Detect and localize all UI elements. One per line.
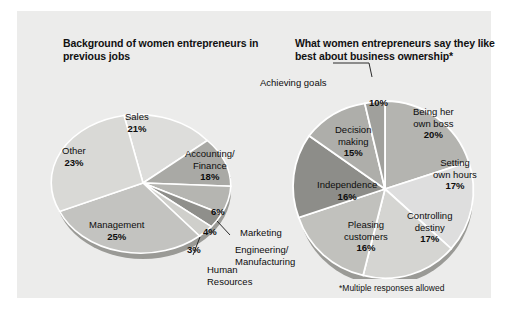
label-human-resources: Human Resources <box>207 264 252 287</box>
label-controlling-destiny: Controlling destiny17% <box>407 210 452 245</box>
chart-panel: Background of women entrepreneurs in pre… <box>17 11 491 298</box>
right-chart-title: What women entrepreneurs say they like b… <box>295 37 506 63</box>
label-independence: Independence16% <box>317 179 377 202</box>
label-sales: Sales21% <box>125 111 149 134</box>
label-setting-own-hours: Setting own hours17% <box>433 157 477 192</box>
label-engineering-value: 4% <box>203 226 217 238</box>
label-other: Other23% <box>62 145 86 168</box>
label-marketing-value: 6% <box>211 206 225 218</box>
label-achieving-goals-value: 10% <box>369 97 388 109</box>
right-leader-lines <box>333 63 372 77</box>
label-management: Management25% <box>89 219 144 242</box>
label-hr-value: 3% <box>187 244 201 256</box>
label-accounting-finance: Accounting/ Finance18% <box>185 148 235 183</box>
right-chart-footnote: *Multiple responses allowed <box>339 283 444 293</box>
label-achieving-goals: Achieving goals <box>260 77 327 89</box>
label-being-her-own-boss: Being her own boss20% <box>413 106 454 141</box>
label-pleasing-customers: Pleasing customers16% <box>344 219 388 254</box>
label-decision-making: Decision making15% <box>335 124 371 159</box>
label-marketing: Marketing <box>240 227 282 239</box>
left-chart-title: Background of women entrepreneurs in pre… <box>63 37 273 63</box>
